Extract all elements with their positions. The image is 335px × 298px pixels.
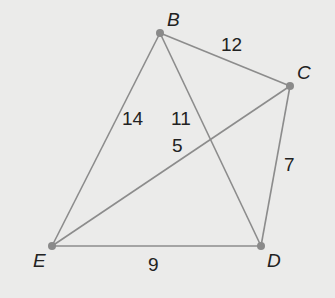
vertex-label-c: C <box>297 62 311 83</box>
vertex-c <box>286 82 294 90</box>
weight-b-e: 14 <box>122 108 144 129</box>
vertex-e <box>48 242 56 250</box>
vertex-label-d: D <box>267 250 281 271</box>
vertices <box>48 29 294 250</box>
edge-weights: 12 14 11 5 7 9 <box>122 34 295 275</box>
edges <box>52 33 290 246</box>
vertex-d <box>257 242 265 250</box>
weight-b-c: 12 <box>221 34 242 55</box>
weight-b-d: 11 <box>171 108 191 129</box>
weight-e-d: 9 <box>148 254 159 275</box>
weight-c-d: 7 <box>284 154 295 175</box>
vertex-label-e: E <box>33 250 46 271</box>
vertex-label-b: B <box>167 9 180 30</box>
vertex-b <box>156 29 164 37</box>
edge-b-e <box>52 33 160 246</box>
graph-diagram: B C D E 12 14 11 5 7 9 <box>0 0 335 298</box>
weight-c-e: 5 <box>172 135 183 156</box>
